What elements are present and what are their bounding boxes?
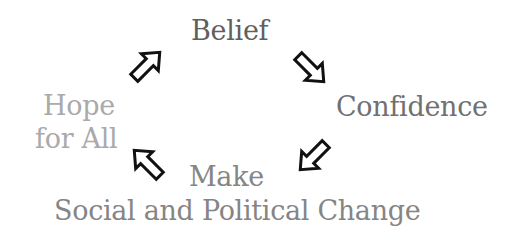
up-left-outline-arrow-icon <box>122 140 172 186</box>
node-hope-line1: Hope <box>43 92 115 119</box>
node-hope-line2: for All <box>35 125 117 152</box>
node-belief: Belief <box>191 17 268 44</box>
down-left-outline-arrow-icon <box>288 134 338 180</box>
node-make-line2: Social and Political Change <box>54 197 420 224</box>
node-make-line1: Make <box>189 163 264 190</box>
down-right-outline-arrow-icon <box>286 46 336 92</box>
cycle-diagram: Belief Confidence Make Social and Politi… <box>0 0 505 231</box>
up-right-outline-arrow-icon <box>122 42 172 88</box>
node-confidence: Confidence <box>336 93 488 120</box>
